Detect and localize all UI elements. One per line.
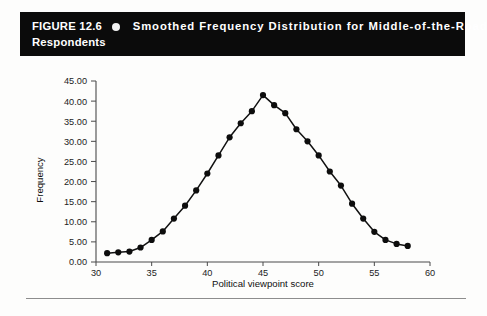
data-point-markers bbox=[104, 92, 411, 256]
data-point-marker bbox=[160, 228, 166, 234]
y-tick-label: 5.00 bbox=[69, 237, 87, 247]
x-tick-label: 45 bbox=[258, 268, 268, 278]
data-point-marker bbox=[394, 241, 400, 247]
y-tick-label: 35.00 bbox=[64, 117, 87, 127]
data-point-marker bbox=[249, 108, 255, 114]
y-tick-label: 45.00 bbox=[64, 76, 87, 86]
x-tick-label: 40 bbox=[202, 268, 212, 278]
x-tick-label: 35 bbox=[147, 268, 157, 278]
data-point-marker bbox=[349, 201, 355, 207]
x-tick-label: 50 bbox=[314, 268, 324, 278]
figure-caption-line-1: Smoothed Frequency Distribution for Midd… bbox=[133, 20, 487, 32]
data-point-marker bbox=[327, 168, 333, 174]
x-axis-title: Political viewpoint score bbox=[212, 278, 314, 289]
banner-line-1: FIGURE 12.6 Smoothed Frequency Distribut… bbox=[32, 18, 453, 34]
data-point-marker bbox=[282, 110, 288, 116]
data-point-marker bbox=[115, 249, 121, 255]
data-point-marker bbox=[360, 215, 366, 221]
chart-canvas: Frequency 0.005.0010.0015.0020.0025.0030… bbox=[0, 62, 487, 290]
y-tick-label: 40.00 bbox=[64, 97, 87, 107]
data-point-marker bbox=[271, 102, 277, 108]
y-tick-label: 15.00 bbox=[64, 197, 87, 207]
y-tick-label: 0.00 bbox=[69, 257, 87, 267]
data-point-marker bbox=[371, 229, 377, 235]
data-point-marker bbox=[260, 92, 266, 98]
x-tick-label: 60 bbox=[425, 268, 435, 278]
data-point-marker bbox=[182, 203, 188, 209]
data-point-marker bbox=[171, 215, 177, 221]
data-point-marker bbox=[382, 237, 388, 243]
y-axis-ticks: 0.005.0010.0015.0020.0025.0030.0035.0040… bbox=[64, 76, 96, 267]
data-point-marker bbox=[227, 134, 233, 140]
x-tick-label: 55 bbox=[369, 268, 379, 278]
data-point-marker bbox=[304, 138, 310, 144]
data-point-marker bbox=[149, 237, 155, 243]
data-series-line bbox=[107, 95, 408, 253]
data-point-marker bbox=[204, 170, 210, 176]
data-point-marker bbox=[126, 248, 132, 254]
figure-caption-banner: FIGURE 12.6 Smoothed Frequency Distribut… bbox=[20, 12, 465, 56]
data-point-marker bbox=[193, 187, 199, 193]
x-axis-ticks: 30354045505560 bbox=[91, 262, 435, 278]
data-point-marker bbox=[137, 244, 143, 250]
y-tick-label: 10.00 bbox=[64, 217, 87, 227]
data-point-marker bbox=[316, 152, 322, 158]
data-point-marker bbox=[104, 250, 110, 256]
y-tick-label: 30.00 bbox=[64, 137, 87, 147]
figure-number-label: FIGURE 12.6 bbox=[32, 20, 102, 32]
x-tick-label: 30 bbox=[91, 268, 101, 278]
y-axis-title: Frequency bbox=[34, 157, 45, 203]
data-point-marker bbox=[238, 120, 244, 126]
data-point-marker bbox=[215, 152, 221, 158]
frequency-distribution-chart: Frequency 0.005.0010.0015.0020.0025.0030… bbox=[0, 62, 487, 290]
series-path bbox=[107, 95, 408, 253]
y-tick-label: 20.00 bbox=[64, 177, 87, 187]
data-point-marker bbox=[338, 182, 344, 188]
data-point-marker bbox=[405, 243, 411, 249]
page-divider-rule bbox=[26, 298, 466, 299]
data-point-marker bbox=[293, 126, 299, 132]
circle-bullet-icon bbox=[112, 23, 120, 31]
y-tick-label: 25.00 bbox=[64, 157, 87, 167]
figure-caption-line-2: Respondents bbox=[32, 34, 453, 50]
